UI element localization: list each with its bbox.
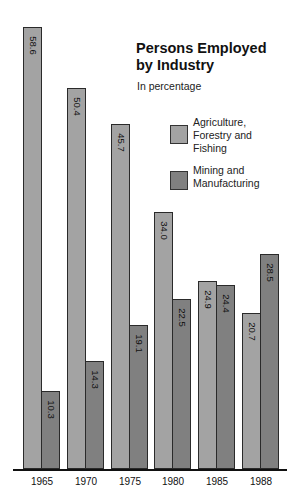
legend-swatch-agriculture [170, 125, 188, 144]
x-tick-label: 1980 [153, 476, 193, 487]
bar-agriculture-1980: 34.0 [154, 212, 173, 469]
bar-value-label: 10.3 [45, 400, 56, 419]
bar-value-label: 14.3 [89, 370, 100, 389]
x-axis-line [13, 469, 287, 471]
bar-value-label: 28.5 [264, 263, 275, 282]
bar-mining-1965: 10.3 [41, 391, 60, 469]
bar-chart: 58.610.350.414.345.719.134.022.524.924.4… [0, 0, 301, 503]
bar-mining-1985: 24.4 [216, 285, 235, 469]
bar-mining-1975: 19.1 [129, 325, 148, 469]
bar-value-label: 22.5 [176, 308, 187, 327]
legend-item-agriculture: Agriculture, Forestry and Fishing [170, 116, 288, 155]
bar-agriculture-1988: 20.7 [242, 313, 261, 469]
bar-value-label: 45.7 [115, 133, 126, 152]
chart-title: Persons Employed by Industry [136, 40, 296, 74]
x-tick-label: 1985 [197, 476, 237, 487]
bar-mining-1970: 14.3 [85, 361, 104, 469]
chart-title-line2: by Industry [136, 57, 296, 74]
bar-value-label: 50.4 [71, 98, 82, 117]
legend-label: Agriculture, Forestry and Fishing [193, 116, 288, 155]
bar-agriculture-1975: 45.7 [111, 124, 130, 469]
x-tick-label: 1970 [66, 476, 106, 487]
legend-swatch-mining [170, 171, 188, 190]
bar-mining-1988: 28.5 [260, 254, 279, 469]
bar-value-label: 19.1 [133, 334, 144, 353]
bar-value-label: 34.0 [158, 222, 169, 241]
x-tick-label: 1965 [22, 476, 62, 487]
bar-mining-1980: 22.5 [172, 299, 191, 469]
bar-value-label: 24.4 [220, 294, 231, 313]
legend-item-mining: Mining and Manufacturing [170, 162, 288, 190]
bar-value-label: 24.9 [202, 290, 213, 309]
chart-subtitle: In percentage [137, 80, 201, 92]
bar-agriculture-1985: 24.9 [198, 281, 217, 469]
chart-title-line1: Persons Employed [136, 40, 296, 57]
x-tick-label: 1975 [110, 476, 150, 487]
bar-agriculture-1965: 58.6 [23, 27, 42, 469]
legend-label: Mining and Manufacturing [193, 162, 288, 190]
legend: Agriculture, Forestry and Fishing Mining… [170, 116, 288, 197]
bar-value-label: 20.7 [246, 322, 257, 341]
x-tick-label: 1988 [241, 476, 281, 487]
bar-agriculture-1970: 50.4 [67, 88, 86, 469]
bar-value-label: 58.6 [27, 36, 38, 55]
